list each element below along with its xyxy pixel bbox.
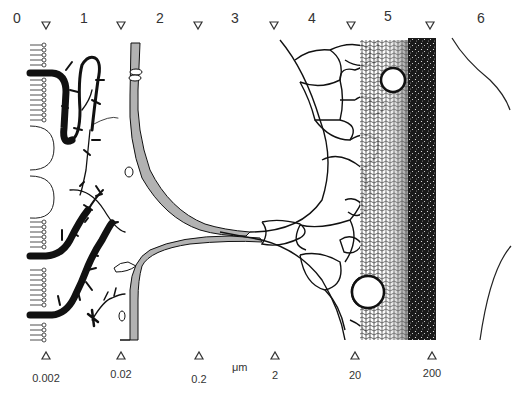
- zone-label-1: 1: [80, 11, 88, 25]
- scale-markers: [42, 352, 436, 359]
- triangle-up-icon: [117, 352, 125, 359]
- scale-unit-label: μm: [232, 362, 248, 373]
- fibril-node: [130, 69, 142, 75]
- diagram-canvas: [0, 0, 527, 393]
- fibril-lower: [114, 236, 262, 340]
- triangle-down-icon: [347, 22, 355, 29]
- zone-label-0: 0: [13, 11, 21, 25]
- fibril-node: [114, 262, 136, 272]
- fibril-node: [125, 167, 133, 177]
- cell-bulge: [30, 176, 54, 218]
- zone-label-3: 3: [231, 11, 239, 25]
- scale-continuum-diagram: [0, 0, 527, 393]
- triangle-down-icon: [426, 22, 434, 29]
- fibril-node: [129, 75, 141, 81]
- triangle-down-icon: [117, 22, 125, 29]
- scale-tick-label: 0.002: [32, 373, 60, 384]
- scale-tick-label: 0.2: [191, 374, 206, 385]
- triangle-up-icon: [42, 352, 50, 359]
- cell-bulge: [30, 126, 54, 170]
- zone-label-6: 6: [477, 11, 485, 25]
- zone-label-5: 5: [384, 9, 392, 23]
- triangle-up-icon: [428, 352, 436, 359]
- zone-label-2: 2: [156, 11, 164, 25]
- lipid-bilayer-membrane: [30, 43, 54, 342]
- branch-chain: [80, 90, 92, 195]
- macroscopic-outline: [452, 38, 511, 340]
- triangle-up-icon: [271, 352, 279, 359]
- triangle-up-icon: [195, 352, 203, 359]
- triangle-down-icon: [194, 22, 202, 29]
- protein-thick-mid: [30, 210, 88, 256]
- triangle-down-icon: [270, 22, 278, 29]
- bilayer-lower: [30, 220, 46, 342]
- scale-tick-label: 200: [423, 368, 441, 379]
- zone-label-4: 4: [308, 11, 316, 25]
- dense-material: [408, 38, 436, 340]
- triangle-down-icon: [42, 22, 50, 29]
- fibril-node: [119, 311, 125, 321]
- bilayer-upper: [30, 43, 46, 122]
- fibril-upper: [125, 43, 250, 236]
- scale-tick-label: 2: [272, 370, 278, 381]
- triangle-up-icon: [351, 352, 359, 359]
- scale-tick-label: 20: [349, 370, 361, 381]
- scale-tick-label: 0.02: [110, 369, 131, 380]
